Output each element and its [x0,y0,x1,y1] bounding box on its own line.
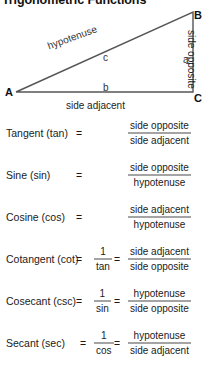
equals-sign-second: = [114,295,120,307]
function-name: Secant (sec) [6,337,65,349]
fraction-denominator: side opposite [128,260,191,273]
formula-row: Cosine (cos) = side adjacent hypotenuse [0,196,209,238]
function-name: Cosine (cos) [6,211,65,223]
equals-sign: = [76,169,82,181]
equals-sign-second: = [114,337,120,349]
function-name: Cotangent (cot) [6,253,78,265]
vertex-label-a: A [5,86,13,98]
ratio-fraction: hypotenuse side adjacent [128,330,191,357]
formula-list: Tangent (tan) = side opposite side adjac… [0,112,209,364]
right-triangle-diagram: A B C c b a hypotenuse side adjacent sid… [0,8,209,108]
fraction-numerator: 1 [94,330,114,344]
fraction-denominator: hypotenuse [128,176,191,189]
side-letter-c: c [103,52,108,63]
ratio-fraction: side opposite side adjacent [128,120,191,147]
vertex-label-c: C [194,92,202,104]
side-letter-b: b [103,82,109,93]
equals-sign: = [76,127,82,139]
equals-sign: = [76,253,82,265]
ratio-fraction: side adjacent side opposite [128,246,191,273]
ratio-fraction: side adjacent hypotenuse [128,204,191,231]
fraction-numerator: 1 [94,246,112,260]
fraction-denominator: cos [94,344,114,357]
vertex-label-b: B [194,9,202,21]
fraction-numerator: hypotenuse [128,288,191,302]
fraction-denominator: side adjacent [128,344,191,357]
page-title: Trigonometric Functions [2,0,146,7]
reciprocal-fraction: 1 sin [94,288,111,315]
fraction-denominator: tan [94,260,112,273]
label-side-adjacent: side adjacent [66,100,125,111]
formula-row: Cosecant (csc) = 1 sin = hypotenuse side… [0,280,209,322]
fraction-numerator: side opposite [128,120,191,134]
formula-row: Sine (sin) = side opposite hypotenuse [0,154,209,196]
ratio-fraction: side opposite hypotenuse [128,162,191,189]
fraction-numerator: hypotenuse [128,330,191,344]
fraction-numerator: side opposite [128,162,191,176]
function-name: Sine (sin) [6,169,50,181]
fraction-numerator: side adjacent [128,246,191,260]
equals-sign-second: = [114,253,120,265]
formula-row: Cotangent (cot) = 1 tan = side adjacent … [0,238,209,280]
fraction-denominator: hypotenuse [128,218,191,231]
reciprocal-fraction: 1 cos [94,330,114,357]
formula-row: Tangent (tan) = side opposite side adjac… [0,112,209,154]
function-name: Tangent (tan) [6,127,68,139]
fraction-denominator: sin [94,302,111,315]
label-side-opposite: side opposite [186,30,197,89]
fraction-numerator: 1 [94,288,111,302]
reciprocal-fraction: 1 tan [94,246,112,273]
equals-sign: = [80,337,86,349]
formula-row: Secant (sec) = 1 cos = hypotenuse side a… [0,322,209,364]
ratio-fraction: hypotenuse side opposite [128,288,191,315]
function-name: Cosecant (csc) [6,295,76,307]
fraction-denominator: side adjacent [128,134,191,147]
fraction-denominator: side opposite [128,302,191,315]
equals-sign: = [76,295,82,307]
fraction-numerator: side adjacent [128,204,191,218]
equals-sign: = [76,211,82,223]
